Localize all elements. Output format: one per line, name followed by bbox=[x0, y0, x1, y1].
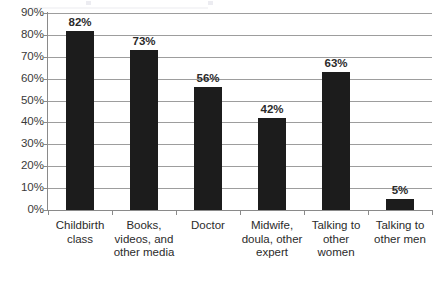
x-axis-category-label: Talking toother men bbox=[369, 219, 431, 246]
gridline bbox=[48, 79, 432, 80]
y-axis-tick-labels: 0%10%20%30%40%50%60%70%80%90% bbox=[0, 13, 44, 210]
bar bbox=[130, 50, 158, 210]
y-axis-tick-label: 40% bbox=[2, 117, 44, 129]
category-label-line: Talking to bbox=[305, 219, 367, 233]
gridline bbox=[48, 13, 432, 14]
y-axis-tick-label: 50% bbox=[2, 95, 44, 107]
gridline bbox=[48, 35, 432, 36]
bar bbox=[258, 118, 286, 210]
y-axis-tick-label: 80% bbox=[2, 29, 44, 41]
gridline bbox=[48, 122, 432, 123]
bar bbox=[386, 199, 414, 210]
category-label-line: other media bbox=[113, 246, 175, 260]
x-axis-tick-mark bbox=[240, 210, 241, 215]
y-axis-tick-label: 0% bbox=[2, 204, 44, 216]
category-label-line: Talking to bbox=[369, 219, 431, 233]
x-axis-tick-mark bbox=[176, 210, 177, 215]
x-axis-category-label: Midwife,doula, otherexpert bbox=[241, 219, 303, 260]
gridline bbox=[48, 101, 432, 102]
category-label-line: Midwife, bbox=[241, 219, 303, 233]
bar bbox=[322, 72, 350, 210]
bar-chart: 0%10%20%30%40%50%60%70%80%90% 82%73%56%4… bbox=[0, 0, 443, 282]
y-axis-tick-label: 30% bbox=[2, 139, 44, 151]
y-axis-tick-label: 90% bbox=[2, 7, 44, 19]
category-label-line: class bbox=[49, 233, 111, 247]
y-axis-tick-label: 10% bbox=[2, 182, 44, 194]
x-axis-tick-mark bbox=[368, 210, 369, 215]
scan-artifact bbox=[86, 1, 91, 5]
bar-value-label: 63% bbox=[324, 58, 347, 70]
gridline bbox=[48, 188, 432, 189]
category-label-line: women bbox=[305, 246, 367, 260]
category-label-line: Childbirth bbox=[49, 219, 111, 233]
scan-artifact bbox=[30, 7, 208, 9]
x-axis-category-label: Books,videos, andother media bbox=[113, 219, 175, 260]
x-axis-tick-mark bbox=[304, 210, 305, 215]
scan-artifact bbox=[208, 1, 213, 5]
bar-value-label: 73% bbox=[132, 36, 155, 48]
y-axis-tick-label: 20% bbox=[2, 160, 44, 172]
x-axis-tick-mark bbox=[432, 210, 433, 215]
bar-value-label: 5% bbox=[392, 185, 409, 197]
gridline bbox=[48, 144, 432, 145]
x-axis-category-label: Doctor bbox=[177, 219, 239, 233]
category-label-line: doula, other bbox=[241, 233, 303, 247]
category-label-line: Doctor bbox=[177, 219, 239, 233]
gridline bbox=[48, 57, 432, 58]
bar-value-label: 82% bbox=[68, 17, 91, 29]
y-axis-tick-label: 60% bbox=[2, 73, 44, 85]
gridline bbox=[48, 166, 432, 167]
category-label-line: videos, and bbox=[113, 233, 175, 247]
y-axis-tick-label: 70% bbox=[2, 51, 44, 63]
bar-value-label: 56% bbox=[196, 73, 219, 85]
category-label-line: Books, bbox=[113, 219, 175, 233]
category-label-line: other men bbox=[369, 233, 431, 247]
category-label-line: other bbox=[305, 233, 367, 247]
bar bbox=[66, 31, 94, 210]
bar-value-label: 42% bbox=[260, 104, 283, 116]
x-axis-category-label: Talking tootherwomen bbox=[305, 219, 367, 260]
x-axis-category-label: Childbirthclass bbox=[49, 219, 111, 246]
bar bbox=[194, 87, 222, 210]
plot-area: 82%73%56%42%63%5% bbox=[48, 13, 432, 210]
category-label-line: expert bbox=[241, 246, 303, 260]
x-axis-tick-mark bbox=[112, 210, 113, 215]
x-axis-tick-mark bbox=[48, 210, 49, 215]
